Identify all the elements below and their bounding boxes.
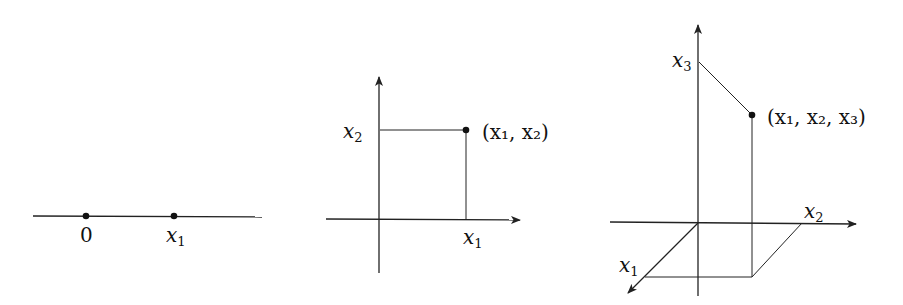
point-label-3d: (x₁, x₂, x₃) xyxy=(767,105,866,129)
base-right-edge xyxy=(752,223,802,277)
x1-point xyxy=(171,213,178,220)
number-line xyxy=(33,216,262,217)
x1-axis xyxy=(326,219,520,220)
x1-axis-label-3d: x1 xyxy=(619,253,639,279)
x2-axis-label: x2 xyxy=(343,119,363,145)
x1-axis-label: x1 xyxy=(463,225,483,251)
point-x1-x2 xyxy=(463,127,470,134)
origin-point xyxy=(83,213,90,220)
x2-axis-label-3d: x2 xyxy=(804,199,824,225)
point-x1-x2-x3 xyxy=(749,112,756,119)
panel-2d-plane: x2 x1 (x₁, x₂) xyxy=(326,77,549,273)
coordinate-dimensions-figure: 0 x1 x2 x1 (x₁, x₂) x3 x2 xyxy=(0,0,903,305)
x3-axis-label: x3 xyxy=(672,48,692,74)
x3-projection-line xyxy=(699,62,752,115)
point-label-2d: (x₁, x₂) xyxy=(482,120,549,144)
panel-3d-space: x3 x2 x1 (x₁, x₂, x₃) xyxy=(610,25,866,296)
origin-label: 0 xyxy=(80,223,93,247)
panel-1d-number-line: 0 x1 xyxy=(33,213,262,249)
x1-label: x1 xyxy=(166,223,186,249)
x1-axis-3d xyxy=(628,223,698,293)
